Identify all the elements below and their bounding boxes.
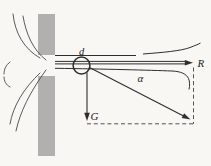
ball-diameter-label: d xyxy=(79,46,85,57)
force-diagram: R G α xyxy=(84,57,204,124)
jet-upper-right-curve xyxy=(143,43,201,54)
wall-upper-block xyxy=(38,14,55,55)
wall-with-slit xyxy=(38,14,55,156)
ball xyxy=(73,57,90,74)
diagram-svg: d R G α xyxy=(0,0,211,166)
resultant-force-arrowhead-icon xyxy=(182,113,191,119)
streamline-upper-outer xyxy=(13,14,40,58)
force-G-arrowhead-icon xyxy=(84,113,90,121)
force-R-label: R xyxy=(197,57,205,69)
wall-lower-block xyxy=(38,76,55,156)
angle-alpha-label: α xyxy=(138,72,144,84)
force-R-arrowhead-icon xyxy=(185,60,193,66)
force-G-label: G xyxy=(91,110,99,122)
physics-figure-air-jet-ball: d R G α xyxy=(0,0,211,166)
streamline-left-upper-arc xyxy=(4,62,10,74)
streamline-lower-outer xyxy=(10,73,40,124)
streamline-left-lower-arc xyxy=(4,77,10,87)
air-jet xyxy=(55,43,201,90)
